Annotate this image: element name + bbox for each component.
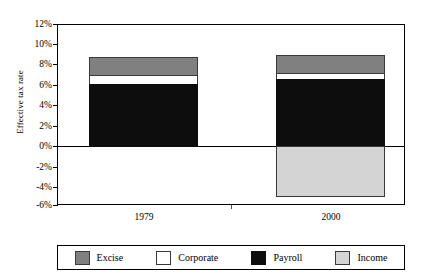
legend-swatch-corporate-icon [156, 251, 171, 265]
chart-container: Effective tax rate 12% 10% 8% 6% 4% 2% 0… [0, 0, 422, 275]
legend-item-payroll[interactable]: Payroll [251, 251, 302, 265]
y-tick-mark-neg6 [53, 205, 58, 206]
legend: Excise Corporate Payroll Income [57, 245, 405, 270]
bar-segment-2000-payroll[interactable] [276, 79, 385, 147]
legend-swatch-excise-icon [75, 251, 90, 265]
bar-segment-1979-payroll[interactable] [89, 84, 198, 147]
legend-item-income[interactable]: Income [335, 251, 387, 265]
legend-swatch-payroll-icon [251, 251, 266, 265]
legend-label-corporate: Corporate [178, 252, 218, 263]
bar-segment-1979-excise[interactable] [89, 57, 198, 76]
bar-segment-2000-income[interactable] [276, 146, 385, 197]
legend-item-corporate[interactable]: Corporate [156, 251, 218, 265]
y-tick-label-10: 10% [0, 39, 52, 49]
y-tick-label-4: 4% [0, 100, 52, 110]
x-axis-label-1979: 1979 [74, 212, 214, 222]
y-tick-label-neg2: -2% [0, 162, 52, 172]
bar-segment-2000-excise[interactable] [276, 55, 385, 74]
legend-label-excise: Excise [97, 252, 124, 263]
legend-swatch-income-icon [335, 251, 350, 265]
y-tick-label-6: 6% [0, 80, 52, 90]
y-tick-label-2: 2% [0, 121, 52, 131]
y-tick-label-neg4: -4% [0, 182, 52, 192]
legend-item-excise[interactable]: Excise [75, 251, 124, 265]
y-tick-label-8: 8% [0, 59, 52, 69]
y-tick-label-neg6: -6% [0, 200, 52, 210]
y-tick-label-0: 0% [0, 141, 52, 151]
x-axis-label-2000: 2000 [261, 212, 401, 222]
legend-label-income: Income [357, 252, 387, 263]
x-tick-mark-center [231, 205, 232, 209]
legend-label-payroll: Payroll [273, 252, 302, 263]
y-tick-label-12: 12% [0, 19, 52, 29]
